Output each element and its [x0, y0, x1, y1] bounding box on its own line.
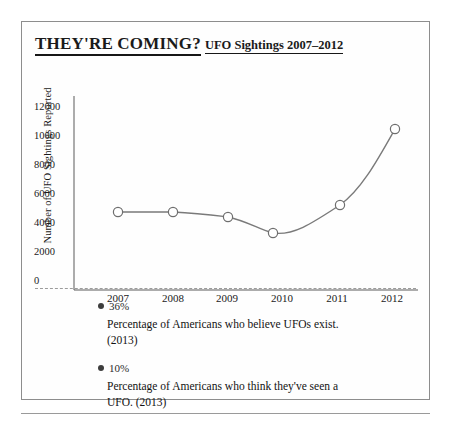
- dot-icon: [98, 303, 104, 309]
- stat-item-believe: 36% Percentage of Americans who believe …: [98, 300, 418, 348]
- stats-divider: [35, 288, 416, 289]
- infographic-card: THEY'RE COMING? UFO Sightings 2007–2012 …: [21, 21, 430, 400]
- stat-caption: Percentage of Americans who think they'v…: [107, 379, 347, 410]
- data-line-path: [118, 129, 395, 233]
- data-point-2012[interactable]: [390, 124, 399, 133]
- stat-value-row: 36%: [98, 300, 418, 312]
- data-point-2010[interactable]: [268, 228, 277, 237]
- stats-list: 36% Percentage of Americans who believe …: [98, 300, 418, 424]
- stat-item-seen: 10% Percentage of Americans who think th…: [98, 362, 418, 410]
- line-chart-svg: [22, 76, 429, 306]
- footer-rule: [21, 413, 430, 414]
- title-block: THEY'RE COMING? UFO Sightings 2007–2012: [22, 22, 429, 56]
- stat-value-row: 10%: [98, 362, 418, 374]
- chart-subtitle: UFO Sightings 2007–2012: [205, 39, 343, 54]
- page-title: THEY'RE COMING?: [35, 35, 201, 56]
- stat-caption: Percentage of Americans who believe UFOs…: [107, 317, 347, 348]
- data-point-2007[interactable]: [113, 207, 122, 216]
- dot-icon: [98, 365, 104, 371]
- stat-value: 36%: [109, 300, 129, 312]
- data-point-2011[interactable]: [335, 200, 344, 209]
- chart-plot-area: Number of UFO Sightings Reported 12000 1…: [22, 76, 429, 306]
- data-point-2009[interactable]: [223, 212, 232, 221]
- stat-value: 10%: [109, 362, 129, 374]
- data-point-2008[interactable]: [168, 207, 177, 216]
